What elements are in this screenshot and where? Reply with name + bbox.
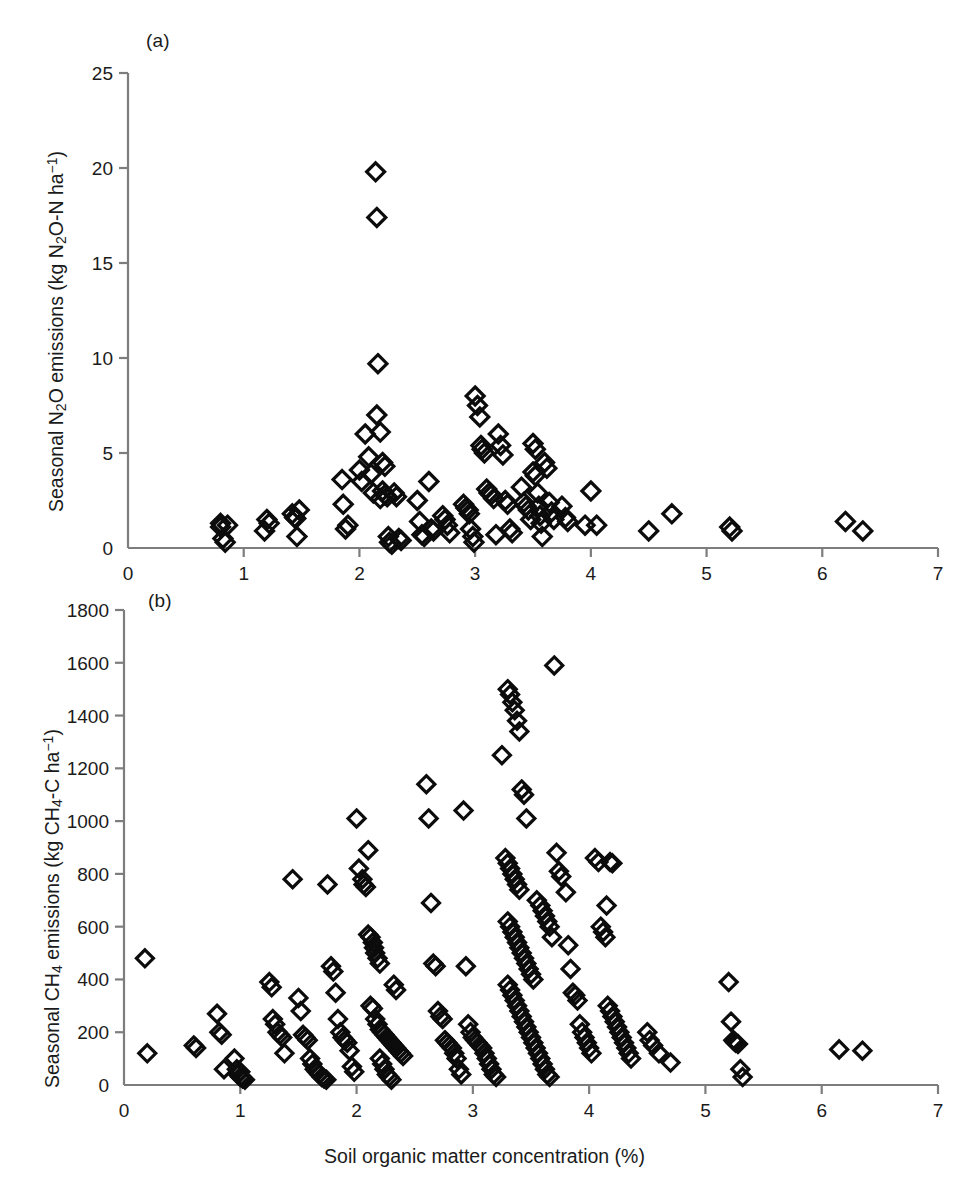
- data-point-diamond: [360, 842, 377, 859]
- data-point-diamond: [327, 984, 344, 1001]
- x-tick-label: 0: [123, 563, 134, 580]
- data-point-diamond: [420, 473, 438, 491]
- data-point-diamond: [854, 1042, 871, 1059]
- data-point-diamond: [422, 894, 439, 911]
- data-point-diamond: [139, 1045, 156, 1062]
- data-point-diamond: [720, 974, 737, 991]
- x-tick-label: 6: [817, 563, 828, 580]
- data-point-diamond: [288, 528, 306, 546]
- data-point-diamond: [368, 406, 386, 424]
- x-tick-label: 7: [933, 1100, 944, 1121]
- x-axis-label: Soil organic matter concentration (%): [0, 1145, 969, 1168]
- y-tick-label: 25: [92, 63, 113, 84]
- data-point-diamond: [319, 876, 336, 893]
- data-point-diamond: [334, 495, 352, 513]
- y-tick-label: 800: [77, 864, 109, 885]
- panel-a-n2o: (a) Seasonal N2O emissions (kg N2O-N ha−…: [0, 0, 969, 580]
- data-point-diamond: [546, 657, 563, 674]
- data-point-diamond: [348, 810, 365, 827]
- y-tick-label: 600: [77, 917, 109, 938]
- data-point-diamond: [209, 1005, 226, 1022]
- x-tick-label: 5: [701, 563, 712, 580]
- data-point-diamond: [457, 958, 474, 975]
- data-point-diamond: [333, 471, 351, 489]
- y-tick-label: 1000: [67, 811, 109, 832]
- data-point-diamond: [836, 512, 854, 530]
- panel-b-ch4: (b) Seasonal CH4 emissions (kg CH4-C ha−…: [0, 580, 969, 1140]
- y-tick-label: 200: [77, 1022, 109, 1043]
- y-tick-label: 400: [77, 969, 109, 990]
- data-point-diamond: [136, 950, 153, 967]
- data-point-diamond: [418, 776, 435, 793]
- x-tick-label: 4: [586, 563, 597, 580]
- data-point-diamond: [582, 482, 600, 500]
- x-tick-label: 0: [119, 1100, 130, 1121]
- data-point-diamond: [663, 505, 681, 523]
- data-point-diamond: [723, 1013, 740, 1030]
- data-point-diamond: [576, 516, 594, 534]
- x-tick-label: 3: [468, 1100, 479, 1121]
- data-point-diamond: [284, 871, 301, 888]
- x-tick-label: 6: [816, 1100, 827, 1121]
- y-tick-label: 1600: [67, 653, 109, 674]
- data-point-diamond: [640, 522, 658, 540]
- data-points: [212, 163, 872, 553]
- data-point-diamond: [420, 810, 437, 827]
- data-points: [136, 657, 870, 1088]
- y-tick-label: 1400: [67, 706, 109, 727]
- y-tick-label: 15: [92, 253, 113, 274]
- x-tick-label: 4: [584, 1100, 595, 1121]
- x-tick-label: 1: [238, 563, 249, 580]
- panel-a-plot: 051015202501234567: [0, 0, 969, 580]
- data-point-diamond: [557, 884, 574, 901]
- data-point-diamond: [598, 897, 615, 914]
- panel-b-plot: 0200400600800100012001400160018000123456…: [0, 580, 969, 1140]
- y-tick-label: 20: [92, 158, 113, 179]
- figure-container: (a) Seasonal N2O emissions (kg N2O-N ha−…: [0, 0, 969, 1191]
- data-point-diamond: [518, 810, 535, 827]
- y-tick-label: 1800: [67, 600, 109, 621]
- x-tick-label: 5: [700, 1100, 711, 1121]
- x-tick-label: 7: [933, 563, 944, 580]
- caption-strip: [0, 1178, 969, 1191]
- data-point-diamond: [367, 163, 385, 181]
- data-point-diamond: [588, 516, 606, 534]
- x-tick-label: 1: [235, 1100, 246, 1121]
- data-point-diamond: [276, 1045, 293, 1062]
- data-point-diamond: [368, 208, 386, 226]
- data-point-diamond: [831, 1041, 848, 1058]
- y-tick-label: 5: [102, 443, 113, 464]
- data-point-diamond: [854, 522, 872, 540]
- data-point-diamond: [493, 747, 510, 764]
- data-point-diamond: [560, 937, 577, 954]
- y-tick-label: 10: [92, 348, 113, 369]
- y-tick-label: 1200: [67, 758, 109, 779]
- y-tick-label: 0: [102, 538, 113, 559]
- x-tick-label: 2: [354, 563, 365, 580]
- data-point-diamond: [455, 802, 472, 819]
- x-tick-label: 3: [470, 563, 481, 580]
- x-tick-label: 2: [351, 1100, 362, 1121]
- y-tick-label: 0: [98, 1075, 109, 1096]
- data-point-diamond: [548, 844, 565, 861]
- data-point-diamond: [408, 492, 426, 510]
- data-point-diamond: [369, 355, 387, 373]
- data-point-diamond: [562, 960, 579, 977]
